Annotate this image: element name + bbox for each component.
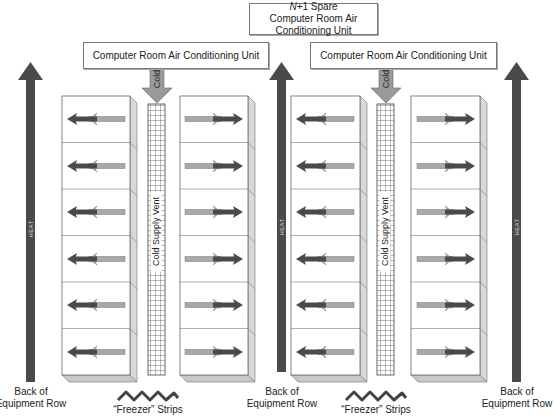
heat-label-right: HEAT: [514, 216, 520, 238]
spare-crac-unit: N+1 Spare Computer Room Air Conditioning…: [249, 3, 378, 35]
cold-label-right: Cold: [381, 68, 391, 90]
heat-label-middle: HEAT: [279, 216, 285, 238]
spare-crac-title: N+1 Spare: [289, 1, 337, 13]
crac-unit-left-label: Computer Room Air Conditioning Unit: [93, 50, 260, 62]
spare-crac-label: Computer Room Air Conditioning Unit: [250, 13, 377, 37]
crac-unit-left: Computer Room Air Conditioning Unit: [83, 42, 269, 69]
back-of-row-caption-left: Back of Equipment Row: [0, 386, 70, 410]
heat-label-left: HEAT: [28, 218, 34, 240]
rack-row-4: [411, 96, 487, 382]
rack-row-1: [62, 96, 137, 382]
freezer-strips-caption-right: “Freezer” Strips: [333, 404, 419, 416]
rack-row-2: [180, 96, 255, 382]
rack-row-3: [291, 96, 367, 382]
freezer-strip-left-icon: [118, 392, 178, 400]
freezer-strip-right-icon: [346, 392, 406, 400]
cold-supply-vent-left-label: Cold Supply Vent: [151, 192, 162, 272]
crac-unit-right: Computer Room Air Conditioning Unit: [310, 42, 497, 69]
cold-supply-vent-right-label: Cold Supply Vent: [380, 192, 391, 272]
cold-label-left: Cold: [152, 68, 162, 90]
back-of-row-caption-middle: Back of Equipment Row: [242, 386, 322, 410]
freezer-strips-caption-left: “Freezer” Strips: [105, 404, 191, 416]
back-of-row-caption-right: Back of Equipment Row: [477, 386, 554, 410]
crac-unit-right-label: Computer Room Air Conditioning Unit: [320, 50, 487, 62]
